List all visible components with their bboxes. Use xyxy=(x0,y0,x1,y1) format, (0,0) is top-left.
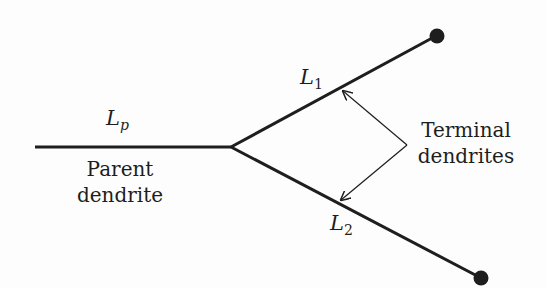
parent-label-line1: Parent xyxy=(87,157,154,181)
label-l2: L2 xyxy=(329,211,353,238)
label-l1: L1 xyxy=(299,65,323,92)
diagram-svg: Lp L1 L2 Parent dendrite Terminal dendri… xyxy=(0,0,547,288)
label-lp: Lp xyxy=(105,106,129,133)
terminal-label-line2: dendrites xyxy=(418,144,514,168)
dendrite-branching-diagram: Lp L1 L2 Parent dendrite Terminal dendri… xyxy=(0,0,547,288)
terminal-label-line1: Terminal xyxy=(421,118,511,142)
parent-label-line2: dendrite xyxy=(77,183,163,207)
lower-terminal-dot xyxy=(474,271,489,286)
upper-terminal-dot xyxy=(430,29,445,44)
arrow-to-lower-branch xyxy=(341,145,407,200)
upper-terminal-branch xyxy=(231,37,434,147)
arrow-to-upper-branch xyxy=(343,91,407,145)
